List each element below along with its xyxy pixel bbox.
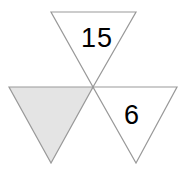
- figure-canvas: 15 6: [0, 0, 185, 172]
- triangles-diagram: 15 6: [0, 0, 185, 172]
- triangle-left-shaded: [9, 87, 93, 163]
- triangle-right-label: 6: [124, 100, 140, 130]
- triangle-top-label: 15: [81, 23, 113, 53]
